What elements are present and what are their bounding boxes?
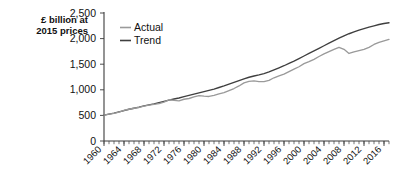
x-tick-label: 1996 [261,144,284,167]
legend-label-actual: Actual [134,21,163,33]
x-tick-label: 2004 [301,144,324,167]
chart-container: £ billion at 2015 prices 05001,0001,5002… [0,0,402,185]
series-line-actual [104,39,389,115]
x-tick-label: 1972 [141,144,164,167]
chart-legend: Actual Trend [120,21,163,46]
x-tick-label: 1980 [181,144,204,167]
x-tick-label: 2008 [321,144,344,167]
x-tick-label: 2000 [281,144,304,167]
x-tick-label: 1968 [121,144,144,167]
x-tick-label: 1984 [201,144,224,167]
y-tick-label: 500 [78,109,96,121]
x-tick-label: 1988 [221,144,244,167]
x-tick-label: 1964 [101,144,124,167]
y-tick-label: 1,000 [70,83,96,95]
x-tick-label: 1992 [241,144,264,167]
x-tick-label: 2016 [361,144,384,167]
x-axis-ticks: 1960196419681972197619801984198819921996… [81,141,384,166]
y-tick-label: 2,500 [70,7,96,19]
x-tick-label: 1960 [81,144,104,167]
gdp-line-chart: £ billion at 2015 prices 05001,0001,5002… [0,0,402,185]
x-tick-label: 1976 [161,144,184,167]
legend-label-trend: Trend [134,34,161,46]
y-tick-label: 2,000 [70,32,96,44]
x-tick-label: 2012 [341,144,364,167]
y-tick-label: 1,500 [70,58,96,70]
